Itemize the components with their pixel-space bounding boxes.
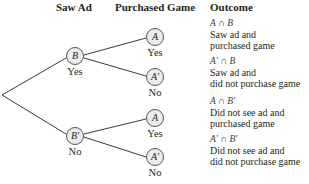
- outcome-4-line1: Did not see ad and: [210, 145, 300, 156]
- outcome-3: A ∩ B' Did not see ad and purchased game: [210, 96, 284, 129]
- node-b-prime-label: No: [60, 146, 90, 157]
- node-a-prime-2-symbol: A': [151, 152, 159, 162]
- node-b-symbol: B: [72, 51, 78, 61]
- node-b: B: [66, 47, 84, 65]
- outcome-4-expr: A' ∩ B': [210, 134, 300, 145]
- node-a-1: A: [146, 28, 164, 46]
- node-a-2-symbol: A: [152, 113, 158, 123]
- outcome-2: A' ∩ B Saw ad and did not purchase game: [210, 56, 300, 89]
- outcome-1-expr: A ∩ B: [210, 18, 275, 29]
- node-a-1-symbol: A: [152, 32, 158, 42]
- outcome-2-line2: did not purchase game: [210, 78, 300, 89]
- outcome-4: A' ∩ B' Did not see ad and did not purch…: [210, 134, 300, 167]
- outcome-1: A ∩ B Saw ad and purchased game: [210, 18, 275, 51]
- node-a-prime-1: A': [146, 68, 164, 86]
- node-a-2-label: Yes: [140, 128, 170, 139]
- node-b-prime-symbol: B': [71, 131, 79, 141]
- outcome-2-expr: A' ∩ B: [210, 56, 300, 67]
- node-a-prime-2-label: No: [140, 167, 170, 178]
- node-b-label: Yes: [60, 66, 90, 77]
- outcome-3-expr: A ∩ B': [210, 96, 284, 107]
- node-a-prime-1-symbol: A': [151, 72, 159, 82]
- outcome-3-line1: Did not see ad and: [210, 107, 284, 118]
- node-a-prime-2: A': [146, 148, 164, 166]
- outcome-1-line2: purchased game: [210, 40, 275, 51]
- outcome-1-line1: Saw ad and: [210, 29, 275, 40]
- node-a-2: A: [146, 109, 164, 127]
- node-a-prime-1-label: No: [140, 87, 170, 98]
- outcome-2-line1: Saw ad and: [210, 67, 300, 78]
- node-b-prime: B': [66, 127, 84, 145]
- node-a-1-label: Yes: [140, 47, 170, 58]
- outcome-4-line2: did not purchase game: [210, 156, 300, 167]
- outcome-3-line2: purchased game: [210, 118, 284, 129]
